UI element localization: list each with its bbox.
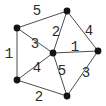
- graph-node-top: [64, 8, 71, 15]
- edge-weight-label-bottom-left-bottom: 2: [35, 89, 43, 105]
- edge-weight-label-center-right: 1: [71, 39, 79, 55]
- graph-canvas: 5243114523: [0, 0, 106, 106]
- graph-node-upper-left: [14, 25, 21, 32]
- graph-node-bottom: [64, 93, 71, 100]
- edge-weight-label-upper-left-center: 3: [31, 36, 39, 52]
- graph-diagram: 5243114523: [0, 0, 106, 106]
- edge-weight-label-center-bottom: 5: [58, 63, 66, 79]
- graph-node-right: [95, 48, 102, 55]
- edge-weight-label-center-bottom-left: 4: [33, 60, 41, 76]
- edge-weight-label-top-right: 4: [85, 23, 93, 39]
- edge-weight-label-top-center: 2: [52, 24, 60, 40]
- edge-weight-label-bottom-right: 3: [82, 65, 90, 81]
- graph-node-center: [50, 50, 57, 57]
- edge-weight-label-upper-left-top: 5: [33, 3, 41, 19]
- graph-node-bottom-left: [14, 77, 21, 84]
- edge-weight-label-upper-left-bottom-left: 1: [5, 46, 13, 62]
